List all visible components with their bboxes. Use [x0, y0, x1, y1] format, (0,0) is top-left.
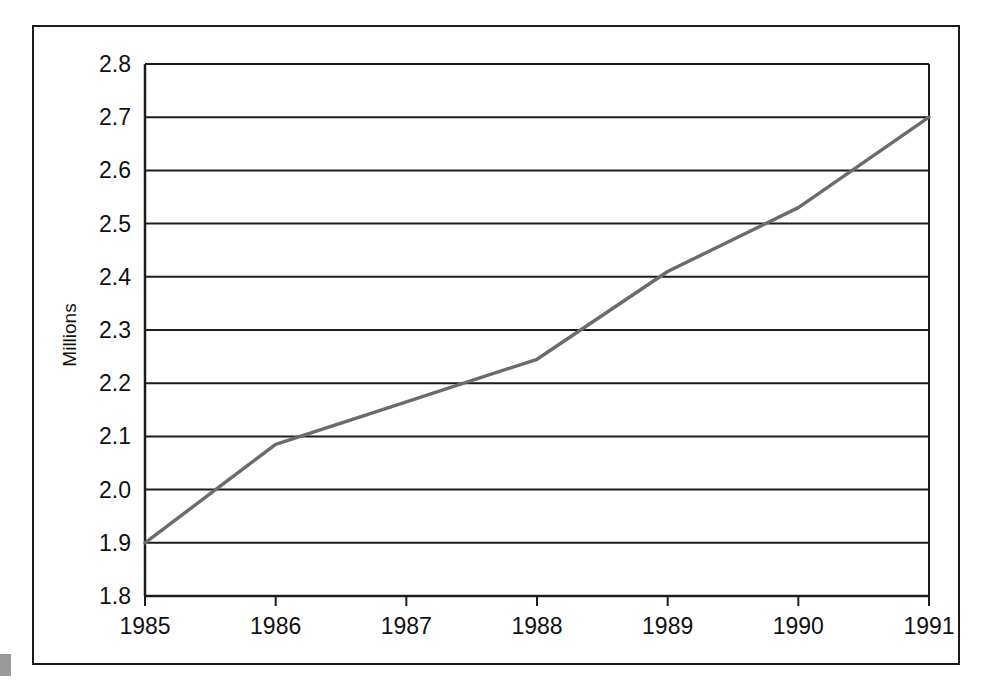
- x-tick-label: 1988: [511, 613, 562, 639]
- x-tick-label: 1986: [250, 613, 301, 639]
- figure-root: 2.82.72.62.52.42.32.22.12.01.91.8 198519…: [0, 0, 992, 692]
- x-tick-label: 1990: [773, 613, 824, 639]
- x-tick-label: 1991: [903, 613, 954, 639]
- y-tick-label: 2.8: [99, 51, 131, 77]
- line-chart: 2.82.72.62.52.42.32.22.12.01.91.8 198519…: [0, 0, 992, 692]
- x-tick-label: 1989: [642, 613, 693, 639]
- y-tick-label: 2.5: [99, 211, 131, 237]
- y-tick-label: 2.4: [99, 264, 131, 290]
- y-tick-labels: 2.82.72.62.52.42.32.22.12.01.91.8: [99, 51, 131, 609]
- y-tick-label: 1.9: [99, 530, 131, 556]
- y-axis-title: Millions: [59, 303, 80, 366]
- x-tick-label: 1987: [381, 613, 432, 639]
- y-tick-label: 2.1: [99, 423, 131, 449]
- y-tick-label: 2.0: [99, 477, 131, 503]
- x-tick-labels: 1985198619871988198919901991: [119, 613, 954, 639]
- y-tick-label: 1.8: [99, 583, 131, 609]
- y-tick-label: 2.6: [99, 157, 131, 183]
- x-tick-marks: [145, 596, 929, 606]
- y-tick-label: 2.7: [99, 104, 131, 130]
- y-tick-label: 2.3: [99, 317, 131, 343]
- y-tick-label: 2.2: [99, 370, 131, 396]
- gridlines: [145, 64, 929, 596]
- x-tick-label: 1985: [119, 613, 170, 639]
